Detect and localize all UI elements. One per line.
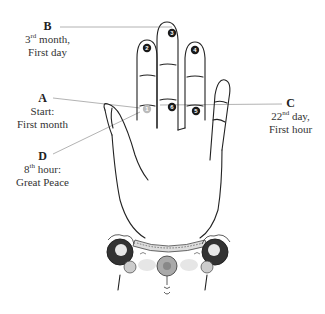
label-c-key: C [258, 97, 323, 110]
marker-5: 5 [192, 107, 200, 115]
label-d-line2: Great Peace [16, 176, 69, 188]
marker-1: 1 [143, 105, 151, 113]
leader-lines [53, 27, 282, 154]
marker-2: 2 [143, 44, 151, 52]
label-b-key: B [10, 20, 85, 33]
label-a: A Start: First month [5, 92, 80, 131]
bracelet [107, 235, 230, 294]
label-c: C 22nd day, First hour [258, 97, 323, 136]
label-c-line1: 22nd day, [271, 110, 310, 122]
label-a-key: A [5, 92, 80, 105]
marker-6: 6 [168, 103, 176, 111]
label-d-line1: 8th hour: [24, 163, 61, 175]
marker-3: 3 [168, 29, 176, 37]
hand-calendar-diagram: 1 2 3 4 5 6 B 3 [0, 0, 325, 314]
label-b: B 3rd month, First day [10, 20, 85, 59]
label-a-line1: Start: [31, 105, 55, 117]
label-c-line2: First hour [269, 123, 312, 135]
label-d-key: D [5, 150, 80, 163]
label-d: D 8th hour: Great Peace [5, 150, 80, 189]
label-b-line1: 3rd month, [25, 33, 70, 45]
marker-4: 4 [191, 46, 199, 54]
label-a-line2: First month [17, 118, 68, 130]
label-b-line2: First day [28, 46, 67, 58]
